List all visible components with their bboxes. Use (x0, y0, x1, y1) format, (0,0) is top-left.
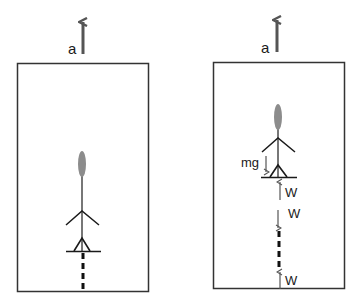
figure-head (78, 151, 86, 177)
stick-figure (66, 151, 101, 252)
figure-head (274, 104, 282, 130)
force-on-spring-top: W (278, 206, 301, 228)
elevator-diagram: a a mg W (0, 0, 362, 304)
normal-force-on-platform: W (280, 182, 298, 200)
force-from-floor: W (280, 272, 298, 289)
acceleration-label: a (261, 39, 270, 56)
acceleration-label: a (68, 40, 77, 57)
force-label: W (285, 185, 298, 200)
gravity-force: mg (241, 155, 266, 172)
right-panel: a mg W W W (214, 20, 345, 289)
force-label: W (285, 273, 298, 288)
force-label: W (288, 206, 301, 221)
gravity-label: mg (241, 155, 259, 170)
left-panel: a (18, 22, 149, 292)
